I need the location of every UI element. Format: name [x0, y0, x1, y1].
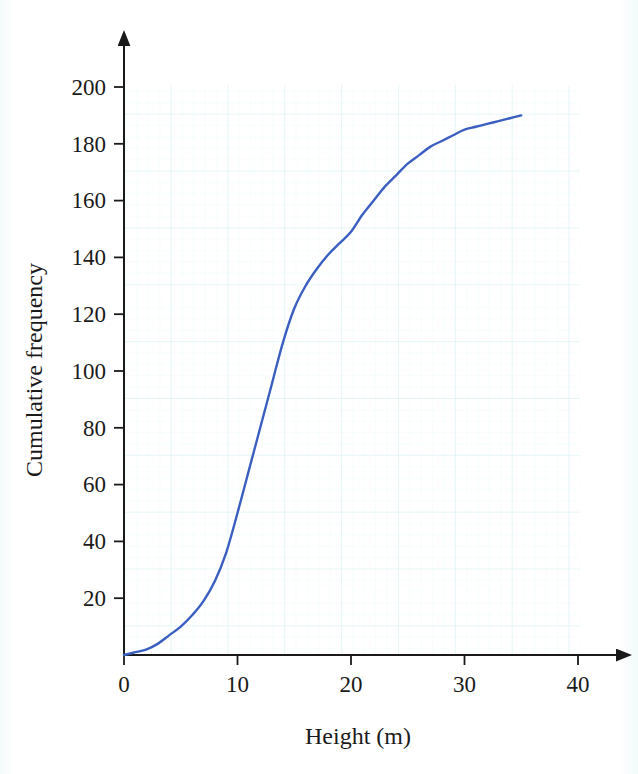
y-tick-label: 60	[83, 472, 106, 497]
y-tick-label: 40	[83, 529, 106, 554]
y-tick-label: 160	[72, 188, 107, 213]
y-tick-label: 20	[83, 586, 106, 611]
y-tick-label: 100	[72, 359, 107, 384]
x-tick-label: 10	[226, 672, 249, 697]
x-tick-label: 40	[567, 672, 590, 697]
y-tick-label: 200	[72, 75, 107, 100]
y-tick-label: 180	[72, 132, 107, 157]
x-tick-label: 30	[453, 672, 476, 697]
x-axis-tick-labels: 0 10 20 30 40	[118, 672, 589, 697]
plot-grid	[124, 85, 580, 655]
x-tick-label: 20	[340, 672, 363, 697]
x-tick-label: 0	[118, 672, 130, 697]
y-tick-label: 120	[72, 302, 107, 327]
cumulative-frequency-chart: 20 40 60 80 100 120 140 160 180 200 0 10…	[0, 0, 638, 774]
y-axis-tick-labels: 20 40 60 80 100 120 140 160 180 200	[72, 75, 107, 611]
chart-page: 20 40 60 80 100 120 140 160 180 200 0 10…	[0, 0, 638, 774]
y-axis-title: Cumulative frequency	[21, 263, 47, 477]
y-tick-label: 80	[83, 416, 106, 441]
y-tick-label: 140	[72, 245, 107, 270]
x-axis-ticks	[124, 655, 578, 665]
y-axis-ticks	[114, 87, 124, 598]
x-axis-title: Height (m)	[305, 723, 411, 749]
